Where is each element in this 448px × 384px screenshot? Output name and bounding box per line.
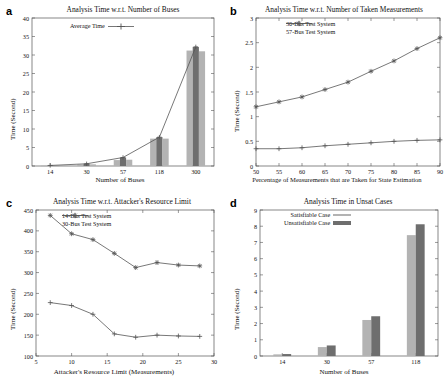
- x-axis-tick: 50: [246, 168, 266, 175]
- y-axis-tick: 3: [233, 15, 253, 22]
- y-axis-tick: 0: [238, 353, 257, 360]
- x-axis-tick: 57: [111, 168, 135, 175]
- legend-marker-plus: [108, 23, 134, 30]
- x-axis-tick: 30: [75, 168, 99, 175]
- legend-label: 30-Bus Test System: [62, 220, 111, 228]
- panel-c-legend: 14-Bus Test System30-Bus Test System: [62, 212, 111, 228]
- y-axis-tick: 1.5: [233, 89, 253, 96]
- y-axis-tick: 8: [238, 223, 257, 230]
- legend-item: 30-Bus Test System: [62, 220, 111, 228]
- panel-c-plot: [0, 192, 224, 384]
- x-axis-tick: 20: [133, 358, 153, 365]
- legend-marker-star: [62, 212, 88, 219]
- panel-b-legend: 30-Bus Test System57-Bus Test System: [286, 20, 335, 36]
- y-axis-tick: 0: [8, 163, 29, 170]
- legend-label: Satisfiable Case: [291, 211, 331, 219]
- y-axis-tick: 5: [238, 271, 257, 278]
- y-axis-tick: 25: [8, 70, 29, 77]
- legend-swatch: [333, 214, 351, 216]
- x-axis-tick: 15: [97, 358, 117, 365]
- legend-item: 57-Bus Test System: [286, 28, 335, 36]
- legend-marker-star: [286, 20, 312, 27]
- y-axis-tick: 400: [11, 227, 33, 234]
- x-axis-tick: 25: [168, 358, 188, 365]
- x-axis-tick: 14: [38, 168, 62, 175]
- y-axis-tick: 350: [11, 248, 33, 255]
- x-axis-tick: 57: [359, 358, 383, 365]
- legend-swatch: [333, 221, 351, 224]
- x-axis-tick: 60: [292, 168, 312, 175]
- legend-item: Average Time: [70, 22, 134, 30]
- x-axis-tick: 118: [147, 168, 171, 175]
- panel-d: d Analysis Time in Unsat Cases Time (Sec…: [224, 192, 448, 384]
- y-axis-tick: 150: [11, 332, 33, 339]
- x-axis-tick: 30: [204, 358, 224, 365]
- y-axis-tick: 1: [233, 113, 253, 120]
- x-axis-tick: 85: [407, 168, 427, 175]
- y-axis-tick: 2: [233, 64, 253, 71]
- panel-a: a Analysis Time w.r.t. Number of Buses T…: [0, 0, 224, 192]
- x-axis-tick: 14: [270, 358, 294, 365]
- y-axis-tick: 0.5: [233, 138, 253, 145]
- y-axis-tick: 30: [8, 52, 29, 59]
- y-axis-tick: 1: [238, 336, 257, 343]
- x-axis-tick: 80: [384, 168, 404, 175]
- x-axis-tick: 10: [62, 358, 82, 365]
- y-axis-tick: 7: [238, 239, 257, 246]
- x-axis-tick: 65: [315, 168, 335, 175]
- x-axis-tick: 90: [430, 168, 448, 175]
- y-axis-tick: 15: [8, 107, 29, 114]
- y-axis-tick: 250: [11, 290, 33, 297]
- y-axis-tick: 5: [8, 144, 29, 151]
- y-axis-tick: 3: [238, 304, 257, 311]
- panel-b: b Analysis Time w.r.t. Number of Taken M…: [224, 0, 448, 192]
- y-axis-tick: 40: [8, 15, 29, 22]
- x-axis-tick: 5: [26, 358, 46, 365]
- x-axis-tick: 30: [315, 358, 339, 365]
- panel-b-plot: [224, 0, 448, 192]
- x-axis-tick: 300: [184, 168, 208, 175]
- y-axis-tick: 9: [238, 207, 257, 214]
- legend-label: 57-Bus Test System: [286, 28, 335, 36]
- y-axis-tick: 20: [8, 89, 29, 96]
- panel-a-legend: Average Time: [70, 22, 134, 30]
- y-axis-tick: 450: [11, 207, 33, 214]
- legend-label: Unsatisfiable Case: [284, 219, 330, 227]
- y-axis-tick: 2.5: [233, 39, 253, 46]
- y-axis-tick: 35: [8, 33, 29, 40]
- x-axis-tick: 75: [361, 168, 381, 175]
- panel-d-legend: Satisfiable CaseUnsatisfiable Case: [284, 211, 351, 227]
- x-axis-tick: 70: [338, 168, 358, 175]
- y-axis-tick: 300: [11, 269, 33, 276]
- y-axis-tick: 4: [238, 288, 257, 295]
- y-axis-tick: 10: [8, 126, 29, 133]
- y-axis-tick: 200: [11, 311, 33, 318]
- figure-grid: a Analysis Time w.r.t. Number of Buses T…: [0, 0, 448, 384]
- y-axis-tick: 2: [238, 320, 257, 327]
- x-axis-tick: 55: [269, 168, 289, 175]
- panel-c: c Analysis Time w.r.t. Attacker's Resour…: [0, 192, 224, 384]
- legend-item: Unsatisfiable Case: [284, 219, 351, 227]
- legend-label: Average Time: [70, 22, 105, 30]
- y-axis-tick: 6: [238, 255, 257, 262]
- x-axis-tick: 118: [404, 358, 428, 365]
- legend-item: Satisfiable Case: [284, 211, 351, 219]
